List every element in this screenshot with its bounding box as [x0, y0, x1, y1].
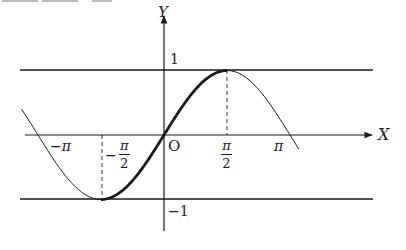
x-axis-label: X — [378, 127, 389, 143]
y-tick-minus-1: −1 — [168, 204, 189, 218]
x-tick-pi: π — [274, 139, 283, 153]
y-tick-1: 1 — [170, 52, 179, 66]
x-tick-minus-pi-half: − π 2 — [105, 139, 130, 170]
y-axis-label: Y — [158, 5, 168, 20]
sine-graph-diagram: Y X O 1 −1 −π − π 2 π 2 π — [0, 0, 406, 250]
graph-canvas — [0, 0, 406, 250]
x-tick-minus-pi: −π — [50, 139, 71, 153]
origin-label: O — [168, 139, 180, 154]
x-tick-pi-half: π 2 — [221, 139, 232, 170]
